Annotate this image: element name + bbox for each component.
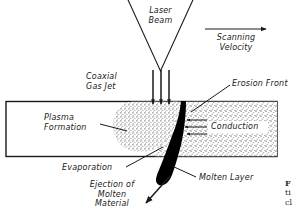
- caption-fragment: F ti cl: [285, 178, 300, 208]
- evaporation-label: Evaporation: [62, 163, 112, 173]
- coaxial-gas-jet-streams: [153, 70, 169, 104]
- laser-beam-label: Laser Beam: [134, 6, 187, 25]
- schematic-vector-canvas: [0, 0, 300, 213]
- conduction-label: Conduction: [211, 122, 258, 132]
- coaxial-gas-jet-label: Coaxial Gas Jet: [86, 72, 117, 91]
- molten-layer-leader: [172, 166, 196, 177]
- plasma-formation-label: Plasma Formation: [44, 113, 87, 132]
- erosion-front-label: Erosion Front: [232, 79, 288, 89]
- scanning-velocity-label: Scanning Velocity: [203, 33, 269, 52]
- molten-layer-label: Molten Layer: [199, 173, 253, 183]
- laser-cutting-schematic-figure: Laser Beam Scanning Velocity Coaxial Gas…: [0, 0, 300, 213]
- ejection-of-molten-material-label: Ejection of Molten Material: [76, 180, 148, 209]
